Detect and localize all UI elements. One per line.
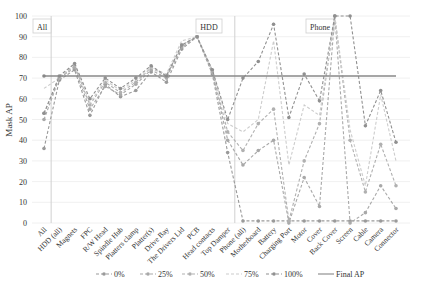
legend-marker [146, 272, 150, 276]
data-point [394, 207, 398, 211]
data-point [318, 205, 322, 209]
data-point [241, 219, 245, 223]
y-tick-label: 80 [19, 53, 27, 62]
legend-label: 100% [284, 270, 303, 279]
data-point [256, 149, 260, 153]
data-point [394, 219, 398, 223]
data-point [134, 80, 138, 84]
data-point [103, 76, 107, 80]
data-point [134, 76, 138, 80]
data-point [302, 159, 306, 163]
y-tick-label: 60 [19, 95, 27, 104]
y-tick-label: 30 [19, 157, 27, 166]
data-point [88, 97, 92, 101]
data-point [318, 99, 322, 103]
data-point [180, 43, 184, 47]
group-label: All [37, 23, 48, 32]
data-point [42, 111, 46, 115]
data-point [226, 151, 230, 155]
data-point [302, 176, 306, 180]
group-labels: AllHDDPhone [33, 19, 334, 33]
y-tick-label: 70 [19, 74, 27, 83]
data-point [88, 107, 92, 111]
data-point [241, 163, 245, 167]
group-label: Phone [310, 23, 330, 32]
data-point [211, 68, 215, 72]
data-point [165, 80, 169, 84]
data-point [241, 149, 245, 153]
line-chart: 0102030405060708090100 Mask AP AllHDDPho… [0, 0, 424, 289]
data-point [241, 76, 245, 80]
data-point [364, 219, 368, 223]
y-tick-label: 40 [19, 136, 27, 145]
data-point [256, 60, 260, 64]
legend-label: Final AP [336, 270, 365, 279]
data-point [226, 118, 230, 122]
data-point [318, 122, 322, 126]
data-point [287, 219, 291, 223]
y-tick-label: 0 [23, 219, 27, 228]
y-tick-label: 20 [19, 178, 27, 187]
legend-marker [102, 272, 106, 276]
data-point [42, 118, 46, 122]
legend-marker [272, 272, 276, 276]
data-point [272, 219, 276, 223]
data-point [73, 62, 77, 66]
y-axis-label: Mask AP [4, 103, 14, 136]
data-point [149, 64, 153, 68]
data-point [134, 89, 138, 93]
data-point [394, 140, 398, 144]
group-label: HDD [200, 23, 218, 32]
data-point [42, 147, 46, 151]
data-point [364, 211, 368, 215]
data-point [333, 14, 337, 18]
data-point [287, 116, 291, 120]
series-line-50pct [44, 16, 396, 221]
data-point [394, 184, 398, 188]
legend-label: 25% [158, 270, 173, 279]
x-axis: AllHDD (all)MagnetsFPCR/W HeadSpindle Hu… [35, 224, 400, 265]
data-point [379, 184, 383, 188]
data-point [226, 138, 230, 142]
data-point [103, 85, 107, 89]
legend: 0%25%50%75%100%Final AP [96, 270, 365, 279]
data-point [272, 107, 276, 111]
legend-label: 0% [114, 270, 125, 279]
x-tick-label: Motor [289, 225, 309, 245]
data-point [302, 72, 306, 76]
data-point [333, 219, 337, 223]
data-point [272, 22, 276, 26]
y-tick-label: 90 [19, 33, 27, 42]
data-point [379, 89, 383, 93]
y-tick-label: 50 [19, 116, 27, 125]
data-point [226, 130, 230, 134]
data-point [348, 138, 352, 142]
y-tick-label: 100 [15, 12, 27, 21]
legend-label: 50% [200, 270, 215, 279]
data-point [302, 219, 306, 223]
legend-marker [188, 272, 192, 276]
y-tick-label: 10 [19, 198, 27, 207]
data-point [119, 91, 123, 95]
data-point [348, 221, 352, 225]
legend-label: 75% [244, 270, 259, 279]
data-point [364, 124, 368, 128]
data-point [364, 190, 368, 194]
data-point [348, 14, 352, 18]
data-point [272, 138, 276, 142]
data-point [119, 87, 123, 91]
x-tick-label: Screen [334, 225, 355, 246]
data-point [379, 143, 383, 147]
data-point [42, 74, 46, 78]
y-axis: 0102030405060708090100 [15, 12, 27, 228]
data-point [256, 219, 260, 223]
data-point [318, 219, 322, 223]
data-point [88, 114, 92, 118]
data-point [379, 219, 383, 223]
data-point [195, 35, 199, 39]
data-point [256, 122, 260, 126]
